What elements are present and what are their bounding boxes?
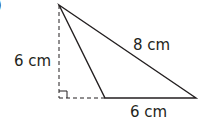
base-label: 6 cm <box>130 103 167 121</box>
triangle-diagram: ) 6 cm 8 cm 6 cm <box>0 0 209 125</box>
right-angle-marker <box>59 91 67 98</box>
item-marker: ) <box>0 0 2 14</box>
height-label: 6 cm <box>14 52 51 70</box>
hypotenuse-label: 8 cm <box>133 36 170 54</box>
obtuse-triangle <box>59 5 196 98</box>
